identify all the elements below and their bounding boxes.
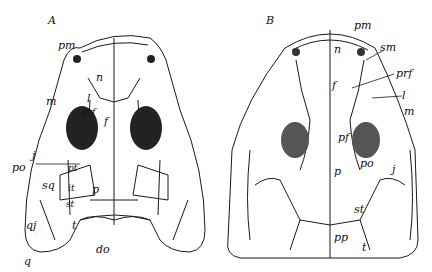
orbit-left-b bbox=[281, 122, 309, 158]
label-a-p: p bbox=[92, 184, 99, 195]
panel-label-b: B bbox=[266, 14, 274, 27]
label-a-pm: pm bbox=[58, 40, 75, 51]
orbit-right-b bbox=[352, 122, 380, 158]
label-a-st: st bbox=[66, 200, 74, 209]
panel-label-a: A bbox=[48, 14, 56, 27]
label-b-pp: pp bbox=[334, 232, 348, 243]
orbit-right-a bbox=[130, 106, 162, 150]
label-b-n: n bbox=[334, 44, 341, 55]
label-b-p: p bbox=[334, 166, 341, 177]
label-b-po: po bbox=[360, 158, 374, 169]
skull-b bbox=[228, 30, 419, 258]
label-a-n: n bbox=[96, 72, 103, 83]
label-a-f: f bbox=[104, 116, 108, 127]
label-a-q: q bbox=[24, 256, 31, 267]
label-a-l: l bbox=[87, 93, 91, 104]
label-b-prf: prf bbox=[396, 68, 412, 79]
label-b-pf: pf bbox=[338, 132, 349, 143]
label-b-j: j bbox=[392, 164, 395, 175]
label-a-j: j bbox=[32, 150, 35, 161]
label-a-t: t bbox=[72, 220, 76, 231]
skull-a bbox=[25, 36, 205, 252]
label-b-f: f bbox=[332, 80, 336, 91]
label-b-sm: sm bbox=[380, 42, 396, 53]
label-a-pt: pt bbox=[68, 164, 77, 173]
label-a-sq: sq bbox=[42, 180, 55, 191]
label-b-pm: pm bbox=[354, 20, 371, 31]
label-a-it: it bbox=[68, 184, 75, 193]
label-a-qj: qj bbox=[26, 220, 36, 231]
label-a-prf: prf bbox=[82, 108, 95, 117]
label-b-t: t bbox=[362, 242, 366, 253]
label-b-l: l bbox=[402, 90, 406, 101]
label-b-m: m bbox=[404, 106, 414, 117]
label-b-st: st bbox=[354, 204, 364, 215]
label-a-m: m bbox=[46, 96, 56, 107]
label-a-do: do bbox=[96, 244, 110, 255]
label-a-po: po bbox=[12, 162, 26, 173]
